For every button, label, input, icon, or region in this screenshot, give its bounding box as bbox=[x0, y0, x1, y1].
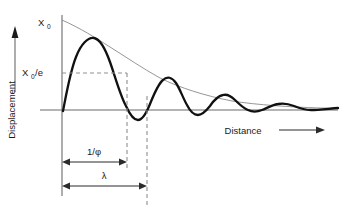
damped-oscillation-figure: Displacement X 0 X 0 /e 1/φ bbox=[0, 0, 343, 213]
x-axis-label: Distance bbox=[225, 125, 262, 136]
y-axis-label: Displacement bbox=[6, 81, 17, 139]
arrow-right-icon bbox=[316, 126, 325, 133]
wavelength-dimension: λ bbox=[62, 170, 147, 189]
x-axis-label-group: Distance bbox=[225, 125, 325, 136]
attenuation-length-label: 1/φ bbox=[87, 146, 101, 157]
attenuation-length-dimension: 1/φ bbox=[62, 146, 127, 165]
decay-amplitude-suffix: /e bbox=[35, 67, 43, 78]
arrow-right-icon bbox=[119, 159, 127, 166]
damped-wave-curve bbox=[63, 38, 338, 120]
figure-canvas: Displacement X 0 X 0 /e 1/φ bbox=[0, 0, 343, 213]
arrow-right-icon bbox=[139, 183, 147, 190]
decay-amplitude-label: X bbox=[22, 67, 29, 78]
initial-amplitude-annotation: X 0 bbox=[38, 17, 51, 30]
arrow-left-icon bbox=[62, 159, 70, 166]
initial-amplitude-label: X bbox=[38, 17, 45, 28]
arrow-up-icon bbox=[12, 26, 19, 38]
wavelength-label: λ bbox=[102, 170, 107, 181]
arrow-left-icon bbox=[62, 183, 70, 190]
initial-amplitude-subscript: 0 bbox=[47, 23, 51, 30]
y-axis-label-group: Displacement bbox=[6, 26, 18, 139]
exponential-envelope-curve bbox=[62, 20, 338, 108]
